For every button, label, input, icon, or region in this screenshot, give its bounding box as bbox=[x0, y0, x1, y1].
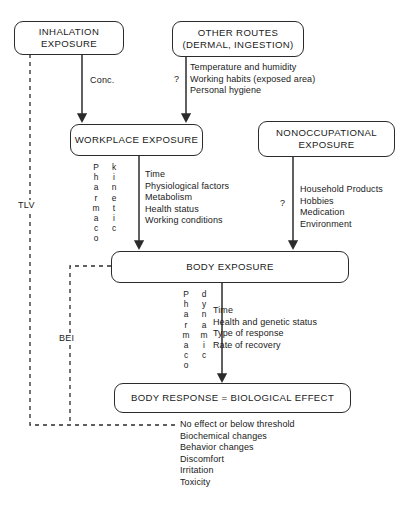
nonoccupational-factor-item: Medication bbox=[300, 207, 383, 219]
workplace-factor-item: Physiological factors bbox=[145, 181, 229, 193]
dynamic-char: n bbox=[199, 309, 209, 319]
pharmaco-char: a bbox=[181, 309, 191, 319]
label-bei: BEI bbox=[58, 333, 75, 343]
pharmaco-char: o bbox=[181, 360, 191, 370]
node-body-exposure[interactable]: BODY EXPOSURE bbox=[111, 251, 349, 283]
node-body-response-label: BODY RESPONSE = BIOLOGICAL EFFECT bbox=[131, 392, 334, 404]
list-other-routes-factors: Temperature and humidityWorking habits (… bbox=[190, 62, 315, 97]
edge-label-conc: Conc. bbox=[90, 75, 115, 85]
node-inhalation-exposure-line1: INHALATION bbox=[39, 26, 99, 38]
pharmaco-char: m bbox=[181, 330, 191, 340]
nonoccupational-factor-item: Hobbies bbox=[300, 196, 383, 208]
other-routes-factor-item: Personal hygiene bbox=[190, 85, 315, 97]
body-exposure-factor-item: Rate of recovery bbox=[213, 340, 317, 352]
node-nonoccupational-exposure[interactable]: NONOCCUPATIONAL EXPOSURE bbox=[258, 121, 395, 157]
kinetic-char: k bbox=[109, 162, 119, 172]
pharmaco-char: P bbox=[91, 162, 101, 172]
list-nonoccupational-factors: Household ProductsHobbiesMedicationEnvir… bbox=[300, 184, 383, 230]
node-body-response[interactable]: BODY RESPONSE = BIOLOGICAL EFFECT bbox=[114, 383, 351, 413]
dynamic-char: a bbox=[199, 320, 209, 330]
node-body-exposure-label: BODY EXPOSURE bbox=[186, 261, 274, 273]
nonoccupational-factor-item: Household Products bbox=[300, 184, 383, 196]
kinetic-char: t bbox=[109, 203, 119, 213]
node-other-routes-line1: OTHER ROUTES bbox=[182, 27, 293, 39]
other-routes-factor-item: Working habits (exposed area) bbox=[190, 74, 315, 86]
pharmaco-char: a bbox=[91, 182, 101, 192]
kinetic-char: e bbox=[109, 193, 119, 203]
dynamic-char: c bbox=[199, 350, 209, 360]
body-response-outcome-item: Biochemical changes bbox=[180, 431, 295, 443]
dynamic-char: m bbox=[199, 330, 209, 340]
pharmaco-char: a bbox=[181, 340, 191, 350]
list-body-exposure-factors: TimeHealth and genetic statusType of res… bbox=[213, 305, 317, 351]
workplace-factor-item: Health status bbox=[145, 204, 229, 216]
body-response-outcome-item: Behavior changes bbox=[180, 442, 295, 454]
body-response-outcome-item: Toxicity bbox=[180, 477, 295, 489]
body-exposure-factor-item: Type of response bbox=[213, 328, 317, 340]
body-response-outcome-item: No effect or below threshold bbox=[180, 419, 295, 431]
body-response-outcome-item: Irritation bbox=[180, 465, 295, 477]
pharmaco-char: h bbox=[181, 299, 191, 309]
vertical-label-pharmaco-dynamic-p: Pharmaco bbox=[181, 289, 191, 371]
vertical-label-pharmaco-kinetic-p: Pharmaco bbox=[91, 162, 101, 244]
kinetic-char: n bbox=[109, 182, 119, 192]
question-mark-nonoccupational: ? bbox=[280, 198, 285, 208]
dynamic-char: d bbox=[199, 289, 209, 299]
pharmaco-char: c bbox=[181, 350, 191, 360]
other-routes-factor-item: Temperature and humidity bbox=[190, 62, 315, 74]
pharmaco-char: r bbox=[91, 193, 101, 203]
nonoccupational-factor-item: Environment bbox=[300, 219, 383, 231]
kinetic-char: c bbox=[109, 223, 119, 233]
diagram-canvas: INHALATION EXPOSURE OTHER ROUTES (DERMAL… bbox=[0, 0, 411, 507]
dashed-line-bei bbox=[70, 266, 111, 425]
list-body-response-outcomes: No effect or below thresholdBiochemical … bbox=[180, 419, 295, 489]
dynamic-char: y bbox=[199, 299, 209, 309]
kinetic-char: i bbox=[109, 172, 119, 182]
pharmaco-char: h bbox=[91, 172, 101, 182]
label-tlv: TLV bbox=[17, 200, 36, 210]
node-inhalation-exposure[interactable]: INHALATION EXPOSURE bbox=[14, 21, 124, 55]
node-workplace-exposure-label: WORKPLACE EXPOSURE bbox=[75, 134, 199, 146]
node-workplace-exposure[interactable]: WORKPLACE EXPOSURE bbox=[70, 124, 203, 156]
question-mark-other-routes: ? bbox=[174, 74, 179, 84]
workplace-factor-item: Working conditions bbox=[145, 215, 229, 227]
pharmaco-char: m bbox=[91, 203, 101, 213]
node-nonoccupational-exposure-line2: EXPOSURE bbox=[276, 139, 377, 151]
pharmaco-char: P bbox=[181, 289, 191, 299]
workplace-factor-item: Time bbox=[145, 169, 229, 181]
pharmaco-char: c bbox=[91, 223, 101, 233]
dashed-line-tlv bbox=[30, 54, 176, 425]
kinetic-char: i bbox=[109, 213, 119, 223]
vertical-label-dynamic: dynamic bbox=[199, 289, 209, 360]
vertical-label-kinetic: kinetic bbox=[109, 162, 119, 233]
pharmaco-char: a bbox=[91, 213, 101, 223]
node-inhalation-exposure-line2: EXPOSURE bbox=[39, 38, 99, 50]
node-other-routes-line2: (DERMAL, INGESTION) bbox=[182, 39, 293, 51]
body-exposure-factor-item: Health and genetic status bbox=[213, 317, 317, 329]
pharmaco-char: r bbox=[181, 320, 191, 330]
node-other-routes[interactable]: OTHER ROUTES (DERMAL, INGESTION) bbox=[172, 21, 304, 57]
node-nonoccupational-exposure-line1: NONOCCUPATIONAL bbox=[276, 127, 377, 139]
dynamic-char: i bbox=[199, 340, 209, 350]
pharmaco-char: o bbox=[91, 233, 101, 243]
workplace-factor-item: Metabolism bbox=[145, 192, 229, 204]
list-workplace-factors: TimePhysiological factorsMetabolismHealt… bbox=[145, 169, 229, 227]
body-response-outcome-item: Discomfort bbox=[180, 454, 295, 466]
body-exposure-factor-item: Time bbox=[213, 305, 317, 317]
